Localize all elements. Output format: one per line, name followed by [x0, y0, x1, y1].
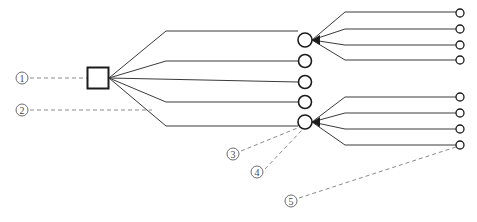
bottom-branch-edge-2: [312, 113, 456, 122]
callout-leader-lines: [30, 78, 456, 198]
top-branch-edge-3: [312, 40, 456, 45]
callout-5-leader-line: [299, 147, 456, 198]
mid-node-2[interactable]: [299, 55, 312, 68]
root-node-square[interactable]: [88, 68, 109, 89]
leaf-node-3[interactable]: [456, 41, 464, 49]
callout-2-label: 2: [20, 105, 25, 116]
bottom-branch-edge-4: [312, 122, 456, 145]
callout-markers[interactable]: 12345: [16, 72, 297, 207]
top-branch-edge-2: [312, 29, 456, 40]
mid-circle-nodes[interactable]: [298, 33, 312, 129]
mid-node-3[interactable]: [299, 76, 312, 89]
callout-3-label: 3: [231, 149, 236, 160]
leaf-node-7[interactable]: [456, 125, 464, 133]
leaf-node-6[interactable]: [456, 109, 464, 117]
mid-node-5[interactable]: [298, 115, 312, 129]
callout-4-leader-line: [265, 129, 303, 169]
leaf-circle-nodes[interactable]: [456, 9, 464, 149]
mid-node-1[interactable]: [298, 33, 312, 47]
root-edge-1: [109, 31, 298, 78]
root-fan-edges: [109, 31, 298, 126]
arrowheads: [101, 35, 320, 127]
bottom-fan-edges: [312, 97, 456, 145]
leaf-node-5[interactable]: [456, 93, 464, 101]
leaf-node-2[interactable]: [456, 25, 464, 33]
root-edge-3: [109, 78, 298, 82]
root-edge-2: [109, 61, 298, 78]
leaf-node-1[interactable]: [456, 9, 464, 17]
callout-5-label: 5: [289, 196, 294, 207]
bottom-branch-edge-3: [312, 122, 456, 129]
leaf-node-4[interactable]: [456, 56, 464, 64]
mid-node-4[interactable]: [299, 96, 312, 109]
callout-4-label: 4: [255, 167, 260, 178]
top-branch-edge-1: [312, 12, 456, 40]
diagram-canvas: 12345: [0, 0, 477, 222]
leaf-node-8[interactable]: [456, 141, 464, 149]
callout-3-leader-line: [241, 127, 300, 151]
root-square-node[interactable]: [88, 68, 109, 89]
top-fan-edges: [312, 12, 456, 60]
bottom-branch-edge-1: [312, 97, 456, 122]
diagram-svg: 12345: [0, 0, 477, 222]
callout-1-label: 1: [20, 73, 25, 84]
